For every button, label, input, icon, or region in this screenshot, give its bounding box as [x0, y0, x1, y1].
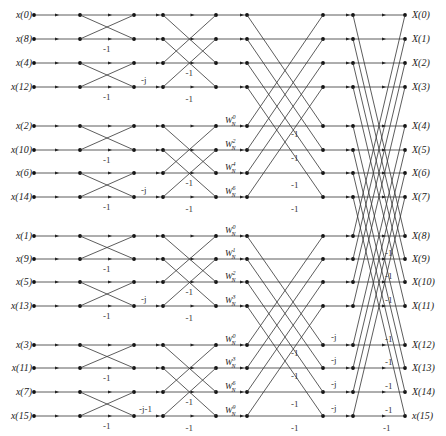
minus-one-label: -1	[291, 372, 299, 381]
minus-one-label: -1	[186, 398, 194, 407]
output-label: X(9)	[412, 254, 430, 264]
input-label: x(4)	[0, 58, 32, 68]
minus-one-label: -1	[186, 95, 194, 104]
input-label: x(2)	[0, 121, 32, 131]
output-label: X(10)	[412, 277, 435, 287]
output-label: X(12)	[412, 340, 435, 350]
minus-one-label: -1	[186, 69, 194, 78]
twiddle-factor: W3N	[225, 293, 236, 309]
output-label: X(0)	[412, 10, 430, 20]
twiddle-factor: W1N	[225, 246, 236, 262]
output-label: X(3)	[412, 82, 430, 92]
twiddle-factor: W6N	[225, 184, 236, 200]
input-label: x(6)	[0, 168, 32, 178]
minus-one-label: -1	[385, 382, 393, 391]
minus-one-label: -1	[103, 422, 111, 431]
minus-j-label: -j	[331, 333, 337, 342]
minus-one-label: -1	[103, 203, 111, 212]
minus-one-label: -1	[291, 181, 299, 190]
node	[32, 124, 36, 128]
node	[32, 85, 36, 89]
minus-j-label: -j	[331, 380, 337, 389]
minus-one-label: -1	[291, 424, 299, 433]
minus-j-label: -j	[141, 186, 147, 195]
output-label: X(4)	[412, 121, 430, 131]
output-label: X(5)	[412, 145, 430, 155]
minus-one-label: -1	[383, 424, 391, 433]
minus-one-label: -1	[103, 45, 111, 54]
node	[32, 366, 36, 370]
twiddle-factor: W9N	[225, 403, 236, 419]
input-label: x(13)	[0, 301, 32, 311]
minus-one-label: -1	[103, 374, 111, 383]
input-label: x(0)	[0, 10, 32, 20]
minus-j-label: -j	[331, 356, 337, 365]
minus-one-label: -1	[385, 296, 393, 305]
node	[32, 280, 36, 284]
twiddle-factor: W3N	[225, 355, 236, 371]
twiddle-factor: W0N	[225, 113, 236, 129]
minus-j-label: -j	[141, 76, 147, 85]
input-label: x(9)	[0, 254, 32, 264]
minus-one-label: -1	[291, 349, 299, 358]
minus-one-label: -1	[291, 154, 299, 163]
twiddle-factor: W0N	[225, 332, 236, 348]
minus-one-label: -1	[385, 272, 393, 281]
minus-one-label: -1	[186, 179, 194, 188]
minus-one-label: -1	[385, 249, 393, 258]
output-label: X(1)	[412, 34, 430, 44]
minus-j-label: -j	[331, 404, 337, 413]
minus-j-minus-one-label: -j-1	[139, 405, 152, 414]
output-label: x(15)	[412, 411, 433, 421]
minus-one-label: -1	[103, 93, 111, 102]
minus-one-label: -1	[103, 156, 111, 165]
minus-one-label: -1	[291, 130, 299, 139]
input-label: x(3)	[0, 340, 32, 350]
node	[32, 13, 36, 17]
butterfly-lines	[0, 0, 446, 436]
minus-one-label: -1	[103, 265, 111, 274]
twiddle-factor: W6N	[225, 379, 236, 395]
minus-one-label: -1	[186, 424, 194, 433]
output-label: X(14)	[412, 387, 435, 397]
input-label: x(12)	[0, 82, 32, 92]
input-label: x(7)	[0, 387, 32, 397]
twiddle-factor: W0N	[225, 223, 236, 239]
minus-j-label: -j	[141, 295, 147, 304]
node	[32, 257, 36, 261]
minus-one-label: -1	[103, 312, 111, 321]
output-label: X(8)	[412, 231, 430, 241]
node	[32, 148, 36, 152]
twiddle-factor: W4N	[225, 160, 236, 176]
minus-one-label: -1	[385, 358, 393, 367]
node	[32, 171, 36, 175]
input-label: x(14)	[0, 192, 32, 202]
twiddle-factor: W2N	[225, 269, 236, 285]
minus-one-label: -1	[186, 288, 194, 297]
minus-one-label: -1	[291, 205, 299, 214]
minus-one-label: -1	[291, 400, 299, 409]
minus-one-label: -1	[385, 406, 393, 415]
fft-flow-graph: x(0)x(8)x(4)x(12)x(2)x(10)x(6)x(14)x(1)x…	[0, 0, 446, 436]
input-label: x(11)	[0, 363, 32, 373]
node	[32, 343, 36, 347]
input-label: x(10)	[0, 145, 32, 155]
node	[32, 37, 36, 41]
input-label: x(1)	[0, 231, 32, 241]
output-label: X(2)	[412, 58, 430, 68]
node	[32, 390, 36, 394]
minus-one-label: -1	[385, 335, 393, 344]
output-label: X(13)	[412, 363, 435, 373]
output-label: X(11)	[412, 301, 434, 311]
input-label: x(15)	[0, 411, 32, 421]
twiddle-factor: W2N	[225, 137, 236, 153]
minus-one-label: -1	[186, 314, 194, 323]
node	[32, 234, 36, 238]
node	[32, 61, 36, 65]
output-label: X(7)	[412, 192, 430, 202]
output-label: X(6)	[412, 168, 430, 178]
node	[32, 195, 36, 199]
node	[32, 304, 36, 308]
node	[32, 414, 36, 418]
input-label: x(5)	[0, 277, 32, 287]
